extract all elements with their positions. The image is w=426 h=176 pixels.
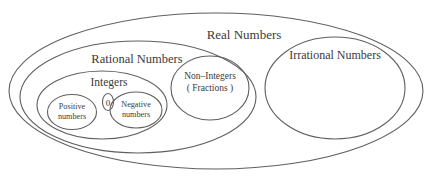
positive-numbers-label-line1: Positive [59,102,86,111]
positive-numbers-label-line2: numbers [58,112,86,121]
real-numbers-label: Real Numbers [207,27,282,42]
number-sets-diagram: Real Numbers Rational Numbers Integers P… [0,0,426,176]
zero-label: 0 [106,98,111,108]
non-integers-label-line1: Non–Integers [184,71,236,81]
integers-label: Integers [90,76,128,89]
rational-numbers-label: Rational Numbers [91,52,182,66]
negative-numbers-label-line1: Negative [121,100,151,109]
non-integers-label-line2: ( Fractions ) [187,83,233,94]
euler-diagram-canvas: Real Numbers Rational Numbers Integers P… [0,0,426,176]
irrational-numbers-label: Irrational Numbers [289,48,381,62]
negative-numbers-label-line2: numbers [122,110,150,119]
